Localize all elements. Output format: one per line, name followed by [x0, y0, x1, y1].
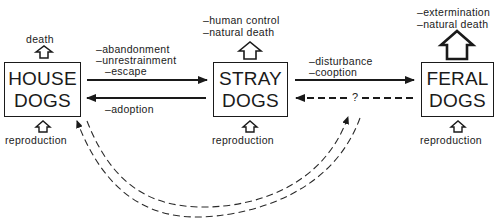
node-stray-line2: DOGS — [222, 90, 279, 112]
outflow-feral-natural-death: –natural death — [417, 18, 488, 30]
node-stray-line1: STRAY — [219, 68, 282, 90]
outflow-feral-extermination: –extermination — [417, 6, 490, 18]
node-house-line1: HOUSE — [8, 68, 77, 90]
edge-label-cooption: –cooption — [309, 66, 357, 78]
death-arrow-stray — [239, 42, 261, 59]
curve-outer-to-house — [77, 118, 360, 217]
node-house-line2: DOGS — [14, 90, 71, 112]
edge-label-adoption: –adoption — [105, 103, 154, 115]
node-house-dogs: HOUSE DOGS — [4, 62, 81, 117]
inflow-feral-reproduction: reproduction — [420, 134, 482, 146]
node-stray-dogs: STRAY DOGS — [213, 62, 288, 117]
reproduction-arrow-stray — [243, 121, 257, 132]
outflow-house-death: death — [26, 33, 54, 45]
node-feral-dogs: FERAL DOGS — [421, 62, 494, 117]
reproduction-arrow-feral — [451, 121, 465, 132]
edge-label-question: ? — [351, 91, 359, 103]
death-arrow-house — [36, 46, 52, 58]
death-arrow-feral — [441, 31, 473, 59]
node-feral-line1: FERAL — [426, 68, 488, 90]
outflow-stray-natural-death: –natural death — [203, 26, 274, 38]
reproduction-arrow-house — [36, 121, 50, 132]
outflow-stray-human-control: –human control — [203, 14, 280, 26]
node-feral-line2: DOGS — [429, 90, 486, 112]
edge-label-escape: –escape — [105, 65, 147, 77]
inflow-house-reproduction: reproduction — [5, 134, 67, 146]
inflow-stray-reproduction: reproduction — [212, 134, 274, 146]
